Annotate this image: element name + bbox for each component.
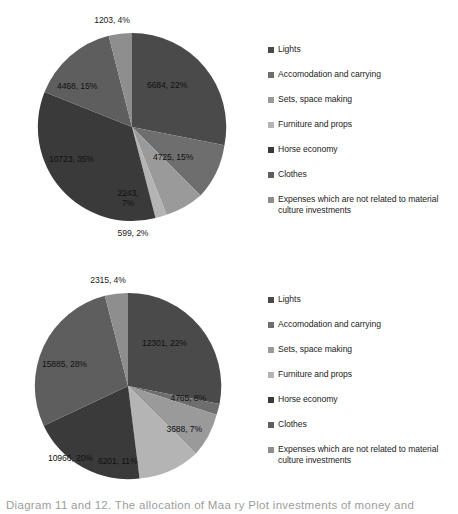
legend-label: Lights <box>278 44 301 55</box>
legend-top: Lights Accomodation and carrying Sets, s… <box>268 44 453 215</box>
legend-swatch-icon <box>268 147 274 153</box>
legend-label: Accomodation and carrying <box>278 69 381 80</box>
legend-swatch-icon <box>268 97 274 103</box>
pie-slice-lights <box>128 293 221 404</box>
figure-caption-clipped: Diagram 11 and 12. The allocation of Maa… <box>0 500 458 514</box>
figure-caption-text: Diagram 11 and 12. The allocation of Maa… <box>6 500 414 512</box>
legend-swatch-icon <box>268 72 274 78</box>
legend-label: Expenses which are not related to materi… <box>278 444 453 465</box>
legend-item-accomodation-and-carrying[interactable]: Accomodation and carrying <box>268 319 453 330</box>
slice-label-expenses: 2315, 4% <box>78 275 138 285</box>
legend-item-furniture-and-props[interactable]: Furniture and props <box>268 119 453 130</box>
legend-swatch-icon <box>268 372 274 378</box>
slice-label-clothes: 4468, 15% <box>57 81 97 91</box>
legend-swatch-icon <box>268 122 274 128</box>
legend-label: Furniture and props <box>278 119 352 130</box>
legend-swatch-icon <box>268 47 274 53</box>
legend-item-clothes[interactable]: Clothes <box>268 169 453 180</box>
legend-label: Lights <box>278 294 301 305</box>
legend-item-sets-space-making[interactable]: Sets, space making <box>268 94 453 105</box>
legend-swatch-icon <box>268 422 274 428</box>
legend-swatch-icon <box>268 172 274 178</box>
legend-item-clothes[interactable]: Clothes <box>268 419 453 430</box>
slice-label-horse-economy: 10966, 20% <box>48 453 93 463</box>
legend-label: Clothes <box>278 169 307 180</box>
slice-label-clothes: 15885, 28% <box>42 359 87 369</box>
slice-label-accomodation: 4725, 15% <box>153 152 193 162</box>
legend-label: Expenses which are not related to materi… <box>278 194 453 215</box>
legend-swatch-icon <box>268 297 274 303</box>
pie-figure-top: 6684, 22% 4725, 15% 2243, 7% 599, 2% 107… <box>0 0 458 262</box>
slice-label-lights: 6684, 22% <box>147 80 187 90</box>
legend-label: Furniture and props <box>278 369 352 380</box>
slice-label-lights: 12301, 22% <box>142 338 187 348</box>
legend-swatch-icon <box>268 322 274 328</box>
legend-swatch-icon <box>268 397 274 403</box>
legend-item-furniture-and-props[interactable]: Furniture and props <box>268 369 453 380</box>
pie-figure-bottom: 12301, 22% 4765, 8% 3688, 7% 6201, 11% 1… <box>0 262 458 494</box>
legend-swatch-icon <box>268 197 274 203</box>
legend-label: Sets, space making <box>278 94 352 105</box>
legend-label: Accomodation and carrying <box>278 319 381 330</box>
legend-swatch-icon <box>268 347 274 353</box>
legend-item-expenses-not-related[interactable]: Expenses which are not related to materi… <box>268 444 453 465</box>
slice-label-accomodation: 4765, 8% <box>142 393 206 403</box>
slice-label-sets: 3688, 7% <box>138 424 202 434</box>
legend-bottom: Lights Accomodation and carrying Sets, s… <box>268 294 453 465</box>
legend-item-horse-economy[interactable]: Horse economy <box>268 394 453 405</box>
legend-item-expenses-not-related[interactable]: Expenses which are not related to materi… <box>268 194 453 215</box>
slice-label-sets: 2243, <box>108 188 148 198</box>
legend-label: Clothes <box>278 419 307 430</box>
slice-label-expenses: 1203, 4% <box>82 15 142 25</box>
slice-label-sets-percent: 7% <box>108 198 148 208</box>
legend-item-accomodation-and-carrying[interactable]: Accomodation and carrying <box>268 69 453 80</box>
pie-chart-top: 6684, 22% 4725, 15% 2243, 7% 599, 2% 107… <box>35 30 229 224</box>
pie-chart-bottom: 12301, 22% 4765, 8% 3688, 7% 6201, 11% 1… <box>32 290 224 482</box>
legend-item-lights[interactable]: Lights <box>268 294 453 305</box>
slice-label-furniture: 599, 2% <box>103 228 163 238</box>
legend-label: Horse economy <box>278 394 338 405</box>
legend-swatch-icon <box>268 447 274 453</box>
legend-item-horse-economy[interactable]: Horse economy <box>268 144 453 155</box>
legend-label: Sets, space making <box>278 344 352 355</box>
slice-label-furniture: 6201, 11% <box>98 456 138 466</box>
legend-label: Horse economy <box>278 144 338 155</box>
slice-label-horse-economy: 10723, 35% <box>49 154 94 164</box>
legend-item-sets-space-making[interactable]: Sets, space making <box>268 344 453 355</box>
legend-item-lights[interactable]: Lights <box>268 44 453 55</box>
